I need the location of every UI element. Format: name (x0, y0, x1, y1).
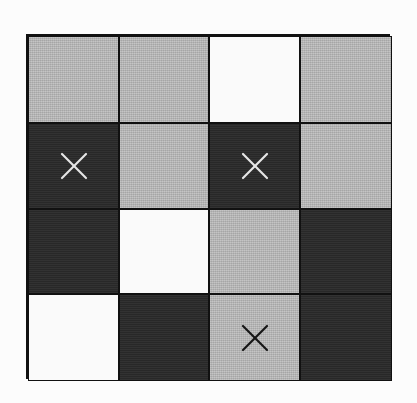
game-board (26, 34, 390, 379)
board-cell-r2-c2[interactable] (209, 209, 300, 294)
cross-mark-icon (241, 152, 269, 180)
board-cell-r3-c1[interactable] (119, 294, 209, 381)
board-cell-r3-c3[interactable] (300, 294, 392, 381)
cross-mark-icon (60, 152, 88, 180)
board-cell-r2-c3[interactable] (300, 209, 392, 294)
board-cell-r0-c0[interactable] (28, 36, 119, 123)
board-cell-r3-c0[interactable] (28, 294, 119, 381)
board-cell-r1-c2[interactable] (209, 123, 300, 209)
board-cell-r3-c2[interactable] (209, 294, 300, 381)
cross-mark-icon (241, 324, 269, 352)
board-cell-r2-c1[interactable] (119, 209, 209, 294)
board-cell-r1-c3[interactable] (300, 123, 392, 209)
board-cell-r2-c0[interactable] (28, 209, 119, 294)
board-cell-r0-c3[interactable] (300, 36, 392, 123)
board-cell-r1-c0[interactable] (28, 123, 119, 209)
board-cell-r1-c1[interactable] (119, 123, 209, 209)
board-cell-r0-c2[interactable] (209, 36, 300, 123)
board-cell-r0-c1[interactable] (119, 36, 209, 123)
